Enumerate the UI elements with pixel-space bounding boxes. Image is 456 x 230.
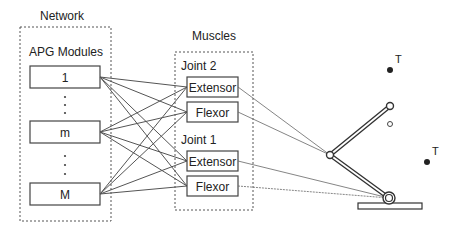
- target-2: T: [424, 145, 439, 165]
- shoulder-joint: [386, 195, 393, 202]
- connection-line: [100, 112, 187, 194]
- joint-label: Joint 2: [181, 59, 217, 73]
- muscle-boxes: Joint 2ExtensorFlexorJoint 1ExtensorFlex…: [181, 59, 238, 196]
- muscle-extensor: Extensor: [187, 151, 238, 171]
- module-label: M: [60, 188, 70, 202]
- ellipsis-dot: [64, 173, 66, 175]
- module-label: m: [60, 126, 70, 140]
- ellipsis-dot: [64, 164, 66, 166]
- upper-arm-link-inner: [330, 155, 389, 198]
- target-dot: [387, 67, 393, 73]
- apg-module-1: 1: [30, 66, 100, 88]
- muscle-joint-line: [238, 112, 330, 155]
- ellipsis-dot: [64, 104, 66, 106]
- ellipsis-dot: [64, 155, 66, 157]
- elbow-joint: [327, 152, 334, 159]
- muscle-label: Flexor: [196, 106, 229, 120]
- muscle-flexor: Flexor: [187, 176, 238, 196]
- hand-start-marker: [388, 122, 393, 127]
- muscles-title: Muscles: [192, 29, 236, 43]
- target-label: T: [395, 53, 402, 65]
- muscle-joint-line: [238, 87, 330, 155]
- apg-module-3: M: [30, 183, 100, 205]
- muscle-label: Extensor: [189, 155, 236, 169]
- target-label: T: [432, 145, 439, 157]
- joint-label: Joint 1: [181, 133, 217, 147]
- ellipsis-dot: [64, 112, 66, 114]
- targets: TT: [387, 53, 439, 165]
- apg-modules: 1mM: [30, 66, 100, 205]
- apg-network-diagram: Network APG Modules 1mM Muscles Joint 2E…: [0, 0, 456, 230]
- muscle-joint-line: [238, 186, 389, 198]
- target-1: T: [387, 53, 402, 73]
- connection-line: [100, 112, 187, 132]
- apg-module-2: m: [30, 121, 100, 143]
- target-dot: [424, 159, 430, 165]
- network-title: Network: [40, 9, 85, 23]
- module-label: 1: [62, 71, 69, 85]
- muscle-label: Extensor: [189, 81, 236, 95]
- module-muscle-connections: [100, 77, 187, 194]
- muscle-flexor: Flexor: [187, 102, 238, 122]
- muscle-label: Flexor: [196, 180, 229, 194]
- forearm-link-inner: [330, 106, 390, 155]
- muscle-extensor: Extensor: [187, 77, 238, 97]
- apg-modules-label: APG Modules: [29, 45, 103, 59]
- connection-line: [100, 77, 187, 161]
- two-link-arm: [327, 103, 423, 210]
- connection-line: [100, 186, 187, 194]
- hand-endpoint: [387, 103, 394, 110]
- connection-line: [100, 132, 187, 161]
- ellipsis-dot: [64, 96, 66, 98]
